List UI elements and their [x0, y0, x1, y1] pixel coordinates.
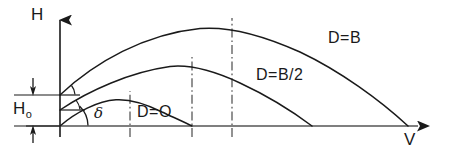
angle-arc-d-eq-b-2 [76, 100, 80, 110]
projectile-trajectory-figure: H V Ho δ D=B D=B/2 D=O [0, 0, 455, 167]
angle-arc-d-eq-b [72, 86, 76, 95]
curve-label-d-eq-b-2: D=B/2 [256, 66, 303, 84]
h-zero-dimension-label: Ho [13, 99, 32, 120]
h-zero-subscript: o [26, 108, 33, 120]
h-axis-label: H [31, 5, 44, 25]
figure-canvas [0, 0, 455, 167]
curve-label-d-eq-o: D=O [137, 103, 172, 121]
launch-angle-delta-label: δ [94, 104, 103, 122]
h-zero-main: H [13, 99, 26, 118]
v-axis-label: V [404, 130, 416, 150]
curve-label-d-eq-b: D=B [328, 29, 361, 47]
trajectory-d-eq-o [60, 100, 192, 126]
